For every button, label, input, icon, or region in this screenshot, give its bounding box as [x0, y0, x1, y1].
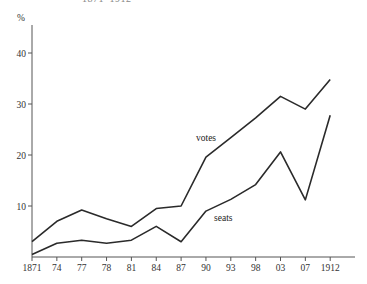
x-tick-label: 03	[276, 263, 286, 273]
seats-label: seats	[214, 213, 233, 223]
line-chart: %10203040187174777881848790939803071912v…	[0, 0, 367, 284]
series-line-seats	[32, 115, 330, 254]
y-tick-label: 40	[17, 49, 27, 59]
x-tick-label: 78	[102, 263, 112, 273]
x-tick-label: 81	[127, 263, 137, 273]
x-tick-label: 74	[52, 263, 62, 273]
y-tick-label: 30	[17, 100, 27, 110]
x-tick-label: 07	[301, 263, 311, 273]
x-tick-label: 77	[77, 263, 87, 273]
x-tick-label: 1912	[321, 263, 340, 273]
x-tick-label: 84	[152, 263, 162, 273]
x-tick-label: 98	[251, 263, 261, 273]
x-tick-label: 87	[176, 263, 186, 273]
y-tick-label: 10	[17, 202, 27, 212]
y-tick-label: 20	[17, 151, 27, 161]
x-tick-label: 90	[201, 263, 211, 273]
x-tick-label: 93	[226, 263, 236, 273]
y-axis-label: %	[17, 13, 25, 23]
x-tick-label: 1871	[23, 263, 42, 273]
votes-label: votes	[196, 133, 216, 143]
